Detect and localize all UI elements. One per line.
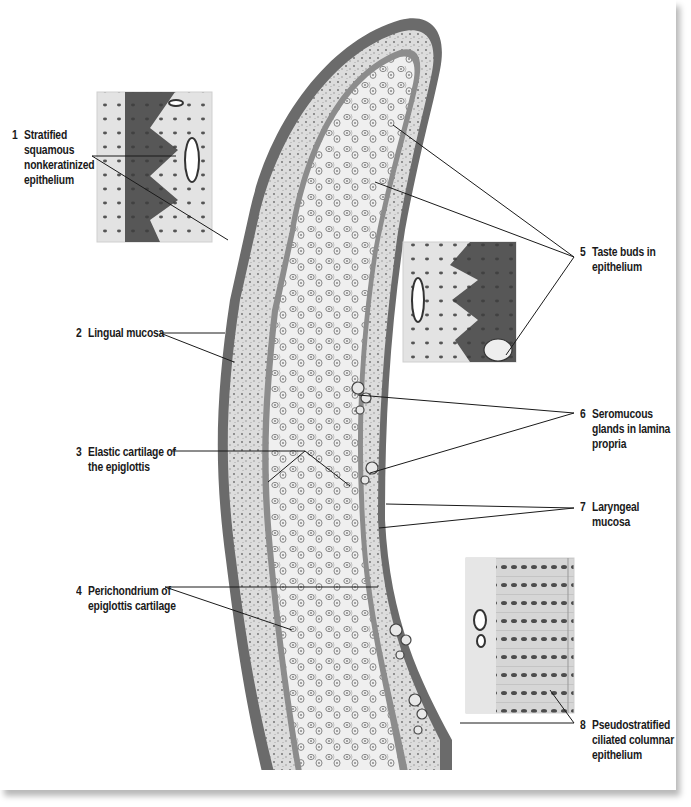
leader-line-6 [370, 413, 574, 473]
label-5-taste-buds: 5 Taste buds in epithelium [580, 245, 656, 275]
label-1-stratified-squamous: 1 Stratified squamous nonkeratinized epi… [12, 128, 94, 188]
leader-line-2 [160, 333, 234, 362]
label-3-elastic-cartilage: 3 Elastic cartilage of the epiglottis [76, 445, 176, 475]
label-text: Taste buds in epithelium [592, 245, 656, 275]
leader-line-7 [379, 508, 574, 528]
label-7-laryngeal-mucosa: 7 Laryngeal mucosa [580, 500, 639, 530]
label-2-lingual-mucosa: 2 Lingual mucosa [76, 326, 164, 341]
leader-line-6 [358, 395, 574, 413]
epiglottis-section [200, 18, 480, 780]
label-text: Pseudostratified ciliated columnar epith… [592, 718, 674, 763]
label-4-perichondrium: 4 Perichondrium of epiglottis cartilage [76, 584, 176, 614]
label-number: 2 [76, 326, 82, 341]
label-text: Perichondrium of epiglottis cartilage [88, 584, 176, 614]
leader-line-7 [386, 504, 574, 508]
inset-pseudostratified [466, 558, 574, 713]
label-text: Seromucous glands in lamina propria [592, 407, 670, 452]
label-8-pseudostratified: 8 Pseudostratified ciliated columnar epi… [580, 718, 674, 763]
label-text: Stratified squamous nonkeratinized epith… [24, 128, 94, 188]
label-text: Laryngeal mucosa [592, 500, 639, 530]
label-6-seromucous-glands: 6 Seromucous glands in lamina propria [580, 407, 670, 452]
label-text: Elastic cartilage of the epiglottis [88, 445, 176, 475]
inset-taste-buds [403, 242, 516, 362]
label-number: 8 [580, 718, 586, 733]
epiglottis-illustration [0, 0, 691, 807]
leader-line-5 [393, 125, 574, 257]
label-number: 4 [76, 584, 82, 599]
label-number: 5 [580, 245, 586, 260]
label-number: 1 [12, 128, 18, 143]
label-number: 3 [76, 445, 82, 460]
label-number: 6 [580, 407, 586, 422]
label-number: 7 [580, 500, 586, 515]
label-text: Lingual mucosa [88, 326, 164, 341]
